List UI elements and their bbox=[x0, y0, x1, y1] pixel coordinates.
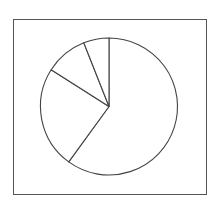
pie-chart bbox=[0, 0, 217, 200]
pie-slices bbox=[40, 38, 177, 175]
